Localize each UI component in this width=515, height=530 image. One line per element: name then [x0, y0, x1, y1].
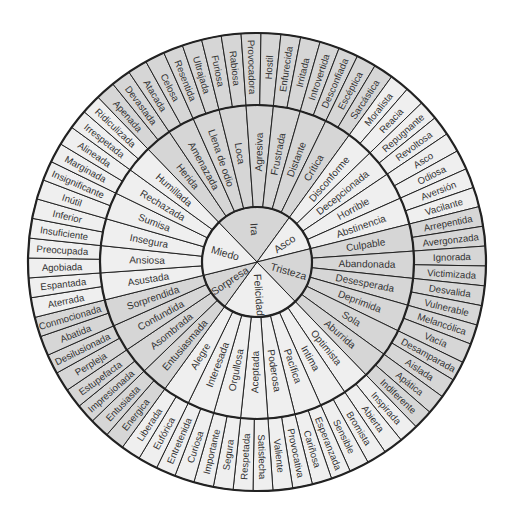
middle-emotion-label: Abandonada — [339, 258, 396, 270]
outer-emotion-label: Provocadora — [246, 40, 258, 95]
emotion-wheel: ApenadaDevastadaAtacadaCelosaResentidaUl… — [0, 0, 515, 530]
outer-emotion-label: Ignorada — [433, 251, 472, 263]
core-emotion-label: Ira — [248, 223, 261, 236]
outer-emotion-label: Agobiada — [42, 261, 83, 273]
middle-emotion-label: Agresiva — [253, 132, 265, 172]
outer-emotion-label: Satisfecha — [256, 434, 268, 480]
middle-emotion-label: Ansiosa — [129, 254, 165, 266]
outer-emotion-label: Hostil — [263, 55, 275, 80]
middle-emotion-label: Aceptada — [249, 350, 261, 393]
